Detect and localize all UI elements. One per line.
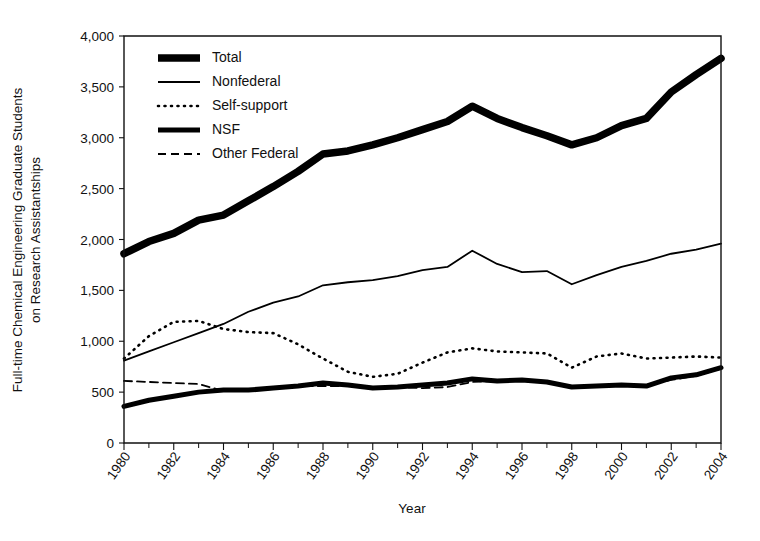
y-axis-title-line-2: on Research Assistantships: [28, 157, 43, 323]
y-tick-label: 4,000: [80, 29, 114, 44]
x-tick-label: 1982: [154, 449, 184, 482]
y-axis-title-line-1: Full-time Chemical Engineering Graduate …: [10, 87, 25, 392]
y-tick-label: 3,500: [80, 80, 114, 95]
y-tick-label: 3,000: [80, 131, 114, 146]
y-tick-label: 1,500: [80, 283, 114, 298]
legend-label-nsf: NSF: [212, 121, 240, 137]
y-axis-ticks: 05001,0001,5002,0002,5003,0003,5004,000: [80, 29, 124, 451]
legend-label-total: Total: [212, 49, 242, 65]
y-axis-title: Full-time Chemical Engineering Graduate …: [10, 87, 43, 392]
x-tick-label: 1998: [552, 449, 582, 482]
x-tick-label: 2000: [601, 449, 631, 482]
x-tick-label: 2002: [651, 449, 681, 482]
x-tick-label: 1980: [104, 449, 134, 482]
legend-label-self-support: Self-support: [212, 97, 288, 113]
x-tick-label: 2004: [701, 449, 731, 483]
y-tick-label: 2,000: [80, 233, 114, 248]
y-tick-label: 0: [106, 436, 114, 451]
x-axis-ticks: 1980198219841986198819901992199419961998…: [104, 443, 731, 482]
x-tick-label: 1984: [203, 449, 233, 483]
x-tick-label: 1992: [402, 449, 432, 482]
x-tick-label: 1986: [253, 449, 283, 482]
x-tick-label: 1994: [452, 449, 482, 483]
x-tick-label: 1996: [502, 449, 532, 482]
x-tick-label: 1988: [303, 449, 333, 482]
legend-label-other-federal: Other Federal: [212, 145, 298, 161]
y-tick-label: 1,000: [80, 334, 114, 349]
line-chart: 05001,0001,5002,0002,5003,0003,5004,000 …: [0, 0, 760, 541]
x-tick-label: 1990: [353, 449, 383, 482]
x-axis-title: Year: [398, 501, 426, 516]
y-tick-label: 2,500: [80, 182, 114, 197]
legend-label-nonfederal: Nonfederal: [212, 73, 281, 89]
y-tick-label: 500: [91, 385, 114, 400]
chart-container: 05001,0001,5002,0002,5003,0003,5004,000 …: [0, 0, 760, 541]
